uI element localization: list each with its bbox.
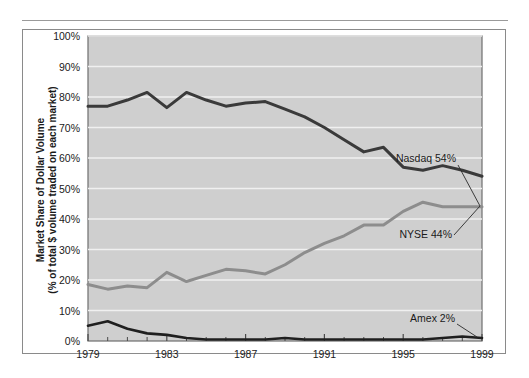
page-root: 0%10%20%30%40%50%60%70%80%90%100% 197919… <box>0 0 529 378</box>
x-tick-label: 1991 <box>313 348 337 360</box>
y-tick-label: 60% <box>59 152 80 164</box>
x-tick-label: 1979 <box>76 348 100 360</box>
y-axis-title-line1: Market Share of Dollar Volume <box>35 117 46 262</box>
x-tick-label: 1999 <box>470 348 494 360</box>
y-tick-label: 70% <box>59 122 80 134</box>
annotation-nyse: NYSE 44% <box>399 228 452 240</box>
x-tick-label: 1987 <box>234 348 258 360</box>
y-tick-label: 40% <box>59 213 80 225</box>
annotation-amex: Amex 2% <box>410 312 455 324</box>
y-tick-label: 80% <box>59 91 80 103</box>
y-axis-title-line2: (% of total $ volume traded on each mark… <box>47 86 58 293</box>
y-tick-label: 20% <box>59 274 80 286</box>
market-share-line-chart: 0%10%20%30%40%50%60%70%80%90%100% 197919… <box>0 0 529 378</box>
x-tick-label: 1995 <box>392 348 416 360</box>
y-tick-label: 100% <box>53 30 80 42</box>
y-tick-label: 30% <box>59 244 80 256</box>
y-tick-label: 0% <box>65 335 80 347</box>
y-tick-label: 90% <box>59 61 80 73</box>
x-axis-tick-labels: 197919831987199119951999 <box>76 348 494 360</box>
y-tick-label: 50% <box>59 183 80 195</box>
x-tick-label: 1983 <box>155 348 179 360</box>
annotation-nasdaq: Nasdaq 54% <box>396 152 456 164</box>
y-tick-label: 10% <box>59 305 80 317</box>
